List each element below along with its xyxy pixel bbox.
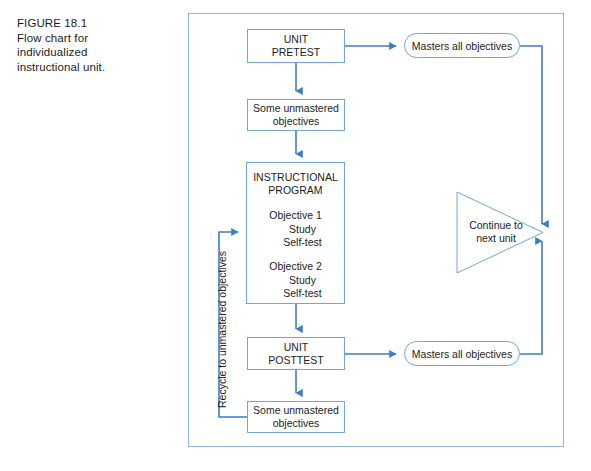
edge-label-recycle-to-unmastered-objectives: Recycle to unmastered objectives: [204, 238, 218, 408]
program-objective-1-step-selftest: Self-test: [283, 236, 322, 249]
recycle-label-text: Recycle to unmastered objectives: [216, 251, 228, 408]
node-unit-posttest-line-1: UNIT: [284, 341, 309, 354]
node-some-unmastered-objectives-top[interactable]: Some unmastered objectives: [247, 99, 345, 131]
caption-line-1: FIGURE 18.1: [17, 16, 167, 31]
node-unmastered-bottom-line-2: objectives: [273, 417, 320, 430]
continue-triangle-label: Continue to next unit: [463, 219, 529, 245]
continue-label-line-1: Continue to: [463, 219, 529, 232]
program-title-line-2: PROGRAM: [253, 184, 338, 197]
node-some-unmastered-objectives-bottom[interactable]: Some unmastered objectives: [247, 401, 345, 433]
program-title: INSTRUCTIONAL PROGRAM: [253, 171, 338, 197]
node-unit-pretest-line-1: UNIT: [284, 33, 309, 46]
node-instructional-program[interactable]: INSTRUCTIONAL PROGRAM Objective 1 Study …: [246, 162, 345, 304]
node-unit-pretest-line-2: PRETEST: [272, 46, 320, 59]
node-unmastered-top-line-2: objectives: [273, 115, 320, 128]
node-unit-pretest[interactable]: UNIT PRETEST: [247, 29, 345, 63]
continue-label-line-2: next unit: [463, 232, 529, 245]
program-title-line-1: INSTRUCTIONAL: [253, 171, 338, 184]
program-objective-2-steps: Study Self-test: [269, 274, 322, 300]
terminator-masters-all-objectives-bottom[interactable]: Masters all objectives: [404, 341, 520, 366]
figure-caption: FIGURE 18.1 Flow chart for individualize…: [17, 16, 167, 74]
caption-line-3: individualized: [17, 45, 167, 60]
program-objective-2-step-selftest: Self-test: [283, 287, 322, 300]
program-objective-1-step-study: Study: [283, 223, 322, 236]
node-unit-posttest[interactable]: UNIT POSTTEST: [247, 337, 345, 370]
program-objective-1-label: Objective 1: [269, 209, 322, 222]
caption-line-2: Flow chart for: [17, 31, 167, 46]
node-continue-to-next-unit[interactable]: Continue to next unit: [457, 191, 545, 274]
caption-line-4: instructional unit.: [17, 60, 167, 75]
node-unit-posttest-line-2: POSTTEST: [268, 354, 323, 367]
terminator-masters-all-objectives-top[interactable]: Masters all objectives: [404, 33, 520, 58]
program-objective-2-label: Objective 2: [269, 260, 322, 273]
node-unmastered-top-line-1: Some unmastered: [253, 102, 339, 115]
node-unmastered-bottom-line-1: Some unmastered: [253, 404, 339, 417]
program-objective-1-steps: Study Self-test: [269, 223, 322, 249]
program-objective-2-step-study: Study: [283, 274, 322, 287]
